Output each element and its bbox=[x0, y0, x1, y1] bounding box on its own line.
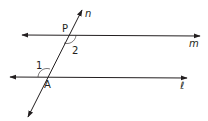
label-n: n bbox=[85, 8, 91, 19]
label-l: ℓ bbox=[180, 80, 184, 91]
label-angle-2: 2 bbox=[72, 45, 78, 56]
line-m bbox=[22, 35, 200, 36]
label-point-a: A bbox=[44, 79, 51, 90]
label-m: m bbox=[189, 38, 199, 49]
label-point-p: P bbox=[62, 23, 68, 34]
line-l bbox=[10, 77, 187, 78]
label-angle-1: 1 bbox=[36, 60, 42, 71]
geometry-diagram: n P m 2 1 A ℓ bbox=[0, 0, 208, 121]
